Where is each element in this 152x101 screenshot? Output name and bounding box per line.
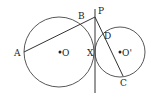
label-d: D bbox=[104, 31, 111, 41]
secant-pc bbox=[95, 17, 123, 76]
geometry-diagram: A B P D X O O' C bbox=[0, 0, 152, 101]
label-o: O bbox=[62, 48, 69, 58]
label-c: C bbox=[120, 78, 127, 88]
label-b: B bbox=[78, 11, 85, 21]
label-a: A bbox=[13, 48, 21, 58]
label-o-prime: O' bbox=[122, 48, 132, 58]
label-x: X bbox=[87, 48, 94, 58]
secant-pa bbox=[24, 17, 95, 52]
label-p: P bbox=[98, 6, 104, 16]
